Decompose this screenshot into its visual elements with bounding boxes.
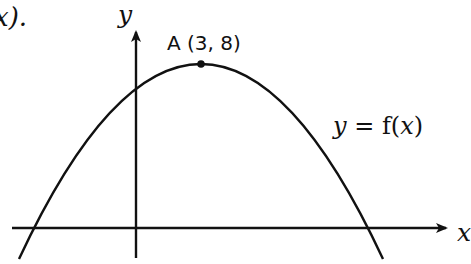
curve-label-var: x (400, 112, 414, 140)
curve-label-eq: = (347, 112, 382, 140)
y-axis-label: y (118, 2, 132, 27)
point-a-marker (197, 60, 205, 68)
curve-label: y = f(x) (333, 114, 423, 138)
point-a-label: A (3, 8) (167, 33, 241, 53)
curve-label-lhs: y (333, 112, 347, 140)
parabola-curve (19, 64, 383, 259)
curve-label-f: f( (382, 112, 400, 140)
graph-figure: x). y A (3, 8) y = f(x) x (0, 0, 471, 264)
x-axis-label: x (457, 220, 471, 245)
curve-label-close: ) (414, 112, 423, 140)
fragment-text: x). (0, 4, 27, 30)
